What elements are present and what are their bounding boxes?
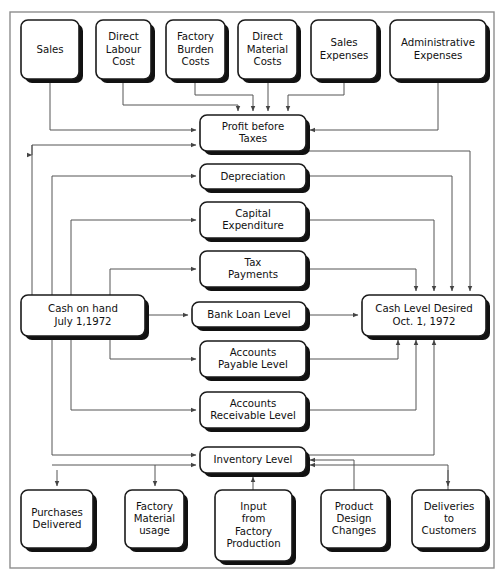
node-profit-before-taxes[interactable]: Profit beforeTaxes xyxy=(200,115,310,155)
node-label: Tax xyxy=(244,257,262,268)
node-label: Bank Loan Level xyxy=(207,309,290,320)
node-admin-expenses[interactable]: AdministrativeExpenses xyxy=(390,20,490,83)
node-inventory-level[interactable]: Inventory Level xyxy=(200,447,310,477)
node-label: from xyxy=(242,513,266,524)
node-label: Oct. 1, 1972 xyxy=(393,316,456,327)
node-factory-material-usage[interactable]: FactoryMaterialusage xyxy=(125,490,188,552)
connector-cash-on-hand-to-depreciation xyxy=(52,176,196,295)
node-label: Payments xyxy=(228,269,278,280)
node-label: Expenditure xyxy=(222,220,284,231)
node-label: Capital xyxy=(235,208,271,219)
node-label: Deliveries xyxy=(424,501,475,512)
node-depreciation[interactable]: Depreciation xyxy=(200,164,310,193)
node-cash-on-hand[interactable]: Cash on handJuly 1,1972 xyxy=(21,295,149,340)
node-label: Product xyxy=(335,501,374,512)
connector-cash-on-hand-to-capital xyxy=(71,220,196,295)
node-label: Sales xyxy=(36,44,63,55)
node-label: Administrative xyxy=(401,37,475,48)
node-label: Payable Level xyxy=(218,359,288,370)
node-layer: SalesDirectLabourCostFactoryBurdenCostsD… xyxy=(21,20,490,565)
node-purchases-delivered[interactable]: PurchasesDelivered xyxy=(21,490,97,552)
node-label: Customers xyxy=(422,525,477,536)
connector-payable-to-cash-level xyxy=(306,340,398,359)
node-label: to xyxy=(444,513,454,524)
node-bank-loan-level[interactable]: Bank Loan Level xyxy=(192,302,310,331)
node-label: Costs xyxy=(182,56,210,67)
node-accounts-payable[interactable]: AccountsPayable Level xyxy=(200,341,310,381)
node-label: Accounts xyxy=(230,398,276,409)
node-label: Input xyxy=(240,501,266,512)
node-capital-expenditure[interactable]: CapitalExpenditure xyxy=(200,202,310,242)
node-label: Cash on hand xyxy=(48,303,118,314)
node-label: usage xyxy=(139,525,170,536)
node-label: Design xyxy=(336,513,371,524)
connector-capital-expenditure-to-cash xyxy=(306,220,434,291)
node-label: Direct xyxy=(108,31,139,42)
node-label: Accounts xyxy=(230,347,276,358)
node-label: Factory xyxy=(136,501,173,512)
connector-inventory-to-cash-level xyxy=(306,340,434,455)
node-input-from-factory-production[interactable]: InputfromFactoryProduction xyxy=(215,490,296,565)
node-cash-level-desired[interactable]: Cash Level DesiredOct. 1, 1972 xyxy=(362,295,490,340)
node-sales[interactable]: Sales xyxy=(21,20,83,83)
node-sales-expenses[interactable]: SalesExpenses xyxy=(311,20,381,83)
connector-depreciation-to-cash-level xyxy=(306,176,452,291)
node-label: Factory xyxy=(235,526,272,537)
node-label: Purchases xyxy=(31,507,83,518)
connector-profit-to-cash-level xyxy=(306,151,470,291)
node-label: Sales xyxy=(330,37,357,48)
node-label: Taxes xyxy=(238,133,267,144)
connector-receivable-to-cash-level xyxy=(306,340,416,410)
node-label: Cost xyxy=(112,56,135,67)
connector-cash-on-hand-to-tax xyxy=(110,269,196,295)
node-label: Direct xyxy=(252,31,283,42)
node-factory-burden[interactable]: FactoryBurdenCosts xyxy=(166,20,229,83)
connector-cash-on-hand-to-inventory xyxy=(52,336,196,455)
connector-factory-burden-to-profit xyxy=(195,79,253,111)
connector-sales-expenses-to-profit xyxy=(288,79,344,111)
connector-deliveries-to-inventory xyxy=(310,465,448,490)
connector-cash-on-hand-to-receivable xyxy=(71,336,196,410)
node-label: Changes xyxy=(332,525,376,536)
node-label: Depreciation xyxy=(221,171,286,182)
node-label: Production xyxy=(226,538,280,549)
node-label: Material xyxy=(134,513,175,524)
node-accounts-receivable[interactable]: AccountsReceivable Level xyxy=(200,392,310,432)
node-deliveries-to-customers[interactable]: DeliveriestoCustomers xyxy=(412,490,490,552)
node-label: Inventory Level xyxy=(214,454,293,465)
node-tax-payments[interactable]: TaxPayments xyxy=(200,251,310,291)
node-label: Expenses xyxy=(414,50,463,61)
node-label: Factory xyxy=(177,31,214,42)
node-label: Cash Level Desired xyxy=(375,303,472,314)
node-label: Material xyxy=(247,44,288,55)
flowchart-canvas: SalesDirectLabourCostFactoryBurdenCostsD… xyxy=(0,0,504,581)
node-direct-labour[interactable]: DirectLabourCost xyxy=(96,20,155,83)
node-label: Receivable Level xyxy=(210,410,296,421)
node-label: Labour xyxy=(106,44,142,55)
node-label: July 1,1972 xyxy=(53,316,111,327)
connector-tax-payments-to-cash-level xyxy=(306,269,416,291)
flowchart-diagram: SalesDirectLabourCostFactoryBurdenCostsD… xyxy=(0,0,504,581)
node-label: Delivered xyxy=(33,519,82,530)
node-label: Burden xyxy=(177,44,214,55)
connector-admin-expenses-to-profit xyxy=(310,79,438,130)
node-product-design-changes[interactable]: ProductDesignChanges xyxy=(321,490,391,552)
node-direct-material[interactable]: DirectMaterialCosts xyxy=(238,20,301,83)
node-label: Profit before xyxy=(222,121,285,132)
node-label: Expenses xyxy=(320,50,369,61)
node-label: Costs xyxy=(254,56,282,67)
